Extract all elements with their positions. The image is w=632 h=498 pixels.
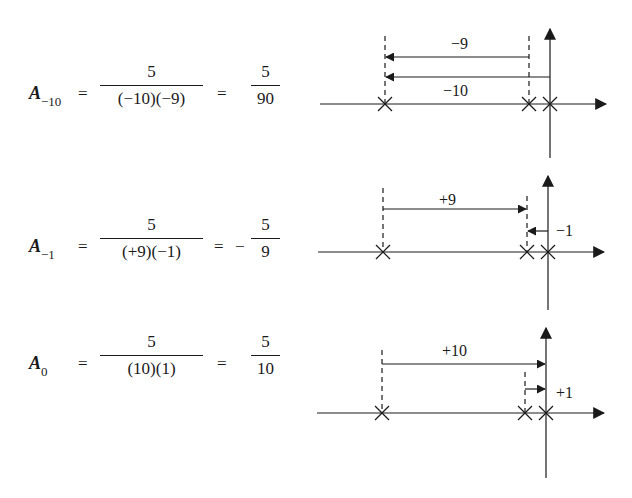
arrow-label: +1 xyxy=(556,384,573,402)
arrow-label: +9 xyxy=(439,191,456,209)
arrow-label: −1 xyxy=(556,222,573,240)
arrow-label: −9 xyxy=(451,35,468,53)
pole-diagrams xyxy=(0,0,632,498)
diagram-row-2 xyxy=(318,176,604,310)
arrow-label: −10 xyxy=(443,82,468,100)
arrow-label: +10 xyxy=(442,342,467,360)
